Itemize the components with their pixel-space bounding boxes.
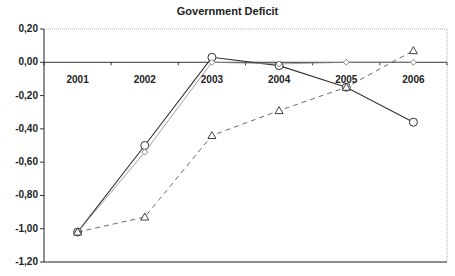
y-tick-label: 0,20 [0, 23, 38, 34]
y-tick-label: -0,80 [0, 189, 38, 200]
y-tick-label: -1,00 [0, 223, 38, 234]
diamond-marker [343, 59, 349, 65]
plot-area [0, 0, 455, 276]
triangle-marker [208, 132, 216, 139]
y-tick-label: -1,20 [0, 256, 38, 267]
triangle-marker [275, 107, 283, 114]
x-tick-label: 2004 [259, 74, 299, 85]
series-line [78, 62, 414, 232]
circle-marker [409, 118, 417, 126]
y-tick-label: -0,60 [0, 156, 38, 167]
x-tick-label: 2003 [192, 74, 232, 85]
triangle-marker [409, 47, 417, 54]
y-tick-label: 0,00 [0, 56, 38, 67]
x-tick-label: 2005 [326, 74, 366, 85]
y-tick-label: -0,40 [0, 123, 38, 134]
line-chart: Government Deficit 0,200,00-0,20-0,40-0,… [0, 0, 455, 276]
x-tick-label: 2002 [125, 74, 165, 85]
y-tick-label: -0,20 [0, 90, 38, 101]
x-tick-label: 2006 [393, 74, 433, 85]
x-tick-label: 2001 [58, 74, 98, 85]
diamond-marker [410, 59, 416, 65]
